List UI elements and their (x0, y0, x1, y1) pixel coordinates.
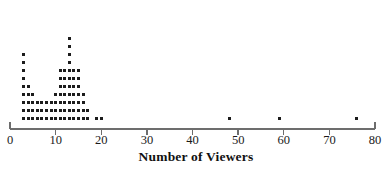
data-point-dot (22, 69, 25, 72)
x-axis-tick-label: 80 (369, 133, 382, 147)
plot-area (0, 0, 392, 126)
data-point-dot (278, 117, 281, 120)
data-point-dot (27, 101, 30, 104)
data-point-dot (54, 117, 57, 120)
dot-plot-figure: 01020304050607080 Number of Viewers (0, 0, 392, 170)
data-point-dot (68, 69, 71, 72)
data-point-dot (68, 77, 71, 80)
data-point-dot (22, 93, 25, 96)
data-point-dot (59, 69, 62, 72)
x-axis-tick-labels: 01020304050607080 (0, 133, 392, 149)
data-point-dot (228, 117, 231, 120)
data-point-dot (68, 101, 71, 104)
data-point-dot (36, 117, 39, 120)
data-point-dot (59, 85, 62, 88)
data-point-dot (22, 53, 25, 56)
data-point-dot (50, 117, 53, 120)
data-point-dot (50, 101, 53, 104)
data-point-dot (100, 117, 103, 120)
data-point-dot (77, 85, 80, 88)
data-point-dot (36, 101, 39, 104)
data-point-dot (77, 101, 80, 104)
x-axis-tick-label: 0 (7, 133, 13, 147)
data-point-dot (72, 85, 75, 88)
data-point-dot (22, 61, 25, 64)
x-axis-title: Number of Viewers (0, 149, 392, 165)
data-point-dot (68, 109, 71, 112)
data-point-dot (45, 109, 48, 112)
data-point-dot (77, 77, 80, 80)
data-point-dot (72, 101, 75, 104)
x-axis-tick-label: 10 (49, 133, 62, 147)
data-point-dot (68, 93, 71, 96)
data-point-dot (68, 37, 71, 40)
x-axis-tick-label: 20 (95, 133, 108, 147)
data-point-dot (77, 93, 80, 96)
data-point-dot (50, 109, 53, 112)
data-point-dot (86, 117, 89, 120)
data-point-dot (22, 101, 25, 104)
data-point-dot (40, 109, 43, 112)
data-point-dot (82, 101, 85, 104)
data-point-dot (82, 93, 85, 96)
data-point-dot (63, 69, 66, 72)
data-point-dot (63, 117, 66, 120)
data-point-dot (22, 117, 25, 120)
data-point-dot (59, 101, 62, 104)
data-point-dot (36, 109, 39, 112)
data-point-dot (54, 109, 57, 112)
data-point-dot (27, 93, 30, 96)
data-point-dot (68, 85, 71, 88)
data-point-dot (86, 109, 89, 112)
data-point-dot (68, 61, 71, 64)
data-point-dot (72, 77, 75, 80)
data-point-dot (22, 77, 25, 80)
data-point-dot (95, 117, 98, 120)
x-axis-tick-label: 40 (186, 133, 199, 147)
x-axis-tick (9, 122, 10, 129)
data-point-dot (72, 117, 75, 120)
data-point-dot (77, 69, 80, 72)
data-point-dot (54, 101, 57, 104)
data-point-dot (63, 77, 66, 80)
data-point-dot (27, 109, 30, 112)
data-point-dot (63, 93, 66, 96)
data-point-dot (27, 117, 30, 120)
data-point-dot (355, 117, 358, 120)
data-point-dot (72, 109, 75, 112)
data-point-dot (82, 117, 85, 120)
data-point-dot (68, 117, 71, 120)
data-point-dot (59, 109, 62, 112)
data-point-dot (77, 117, 80, 120)
data-point-dot (45, 101, 48, 104)
x-axis-tick-label: 50 (232, 133, 245, 147)
data-point-dot (59, 117, 62, 120)
x-axis-tick-label: 30 (141, 133, 154, 147)
data-point-dot (31, 101, 34, 104)
data-point-dot (63, 101, 66, 104)
data-point-dot (31, 93, 34, 96)
data-point-dot (54, 93, 57, 96)
data-point-dot (22, 85, 25, 88)
data-point-dot (72, 69, 75, 72)
data-point-dot (77, 109, 80, 112)
data-point-dot (22, 109, 25, 112)
data-point-dot (27, 85, 30, 88)
data-point-dot (63, 85, 66, 88)
data-point-dot (72, 93, 75, 96)
x-axis-tick (374, 122, 375, 129)
data-point-dot (59, 77, 62, 80)
x-axis-tick-label: 60 (278, 133, 291, 147)
data-point-dot (40, 117, 43, 120)
data-point-dot (63, 109, 66, 112)
data-point-dot (45, 117, 48, 120)
data-point-dot (31, 117, 34, 120)
data-point-dot (68, 53, 71, 56)
data-point-dot (68, 45, 71, 48)
data-point-dot (59, 93, 62, 96)
data-point-dot (40, 101, 43, 104)
data-point-dot (82, 109, 85, 112)
x-axis-tick-label: 70 (323, 133, 336, 147)
data-point-dot (31, 109, 34, 112)
